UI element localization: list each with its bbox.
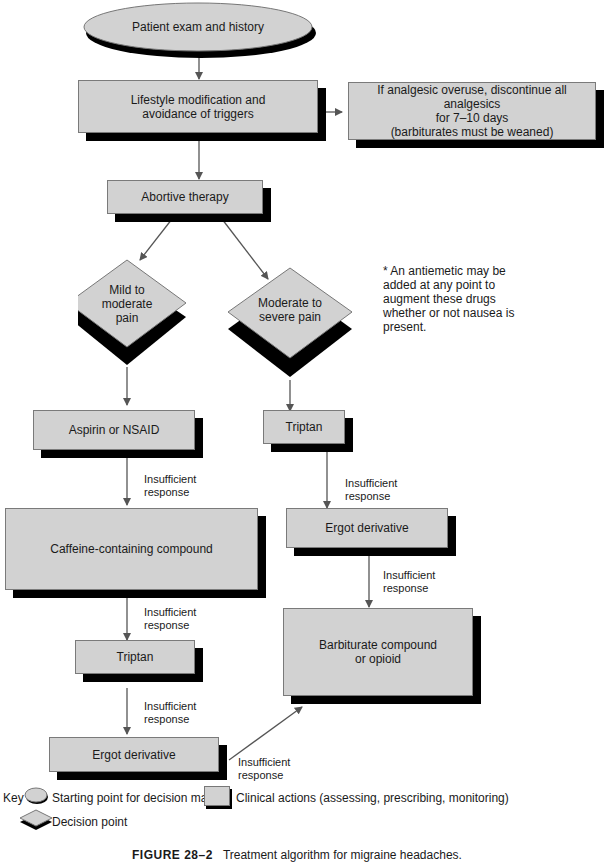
lifestyle-label-2: avoidance of triggers: [142, 107, 253, 121]
overuse-label-2: for 7–10 days: [436, 111, 509, 125]
triptan-left-node: Triptan: [75, 640, 195, 674]
ergot-left-node: Ergot derivative: [49, 737, 219, 772]
edge-label-triptan-ergot-left: Insufficientresponse: [144, 700, 196, 726]
edge-label-ergot-left-barbiturate: Insufficientresponse: [238, 756, 290, 782]
aspirin-nsaid-node: Aspirin or NSAID: [33, 410, 195, 450]
key-start-text: Starting point for decision making: [52, 792, 229, 805]
overuse-label-1: If analgesic overuse, discontinue all an…: [349, 83, 595, 111]
antiemetic-note: * An antiemetic may be added at any poin…: [383, 264, 514, 334]
severe-pain-label: Moderate to severe pain: [240, 292, 340, 328]
barbiturate-opioid-node: Barbiturate compound or opioid: [283, 608, 473, 696]
lifestyle-node: Lifestyle modification and avoidance of …: [78, 80, 318, 133]
figure-caption: FIGURE 28–2 Treatment algorithm for migr…: [132, 848, 462, 862]
key-label: Key: [3, 792, 24, 805]
triptan-right-node: Triptan: [263, 410, 345, 444]
start-node-label: Patient exam and history: [82, 10, 314, 44]
abortive-label: Abortive therapy: [141, 190, 228, 204]
key-rect-icon: [204, 786, 230, 806]
ergot-right-node: Ergot derivative: [286, 508, 448, 548]
caffeine-compound-node: Caffeine-containing compound: [5, 508, 258, 590]
edge-label-triptan-ergot: Insufficientresponse: [345, 477, 397, 503]
key-decision-text: Decision point: [52, 816, 127, 829]
analgesic-overuse-node: If analgesic overuse, discontinue all an…: [348, 82, 596, 140]
edge-label-ergot-barbiturate: Insufficientresponse: [383, 569, 435, 595]
key-diamond-icon: [20, 808, 54, 832]
key-action-text: Clinical actions (assessing, prescribing…: [236, 792, 509, 805]
abortive-therapy-node: Abortive therapy: [107, 180, 263, 214]
edge-label-aspirin-caffeine: Insufficientresponse: [144, 473, 196, 499]
overuse-label-3: (barbiturates must be weaned): [391, 125, 554, 139]
key-ellipse-icon: [24, 786, 50, 806]
mild-pain-label: Mild to moderate pain: [78, 276, 176, 332]
lifestyle-label-1: Lifestyle modification and: [131, 93, 266, 107]
edge-label-caffeine-triptan: Insufficientresponse: [144, 606, 196, 632]
